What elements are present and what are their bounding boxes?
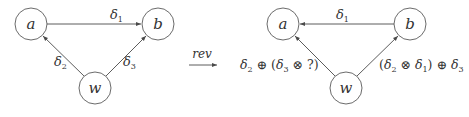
edge-label-delta2: δ2 — [54, 54, 67, 71]
node-a-label: a — [27, 15, 36, 33]
node-a-label: a — [279, 15, 288, 33]
node-w-label: w — [340, 79, 353, 97]
right-graph: a b w δ1 δ2 ⊕ (δ3 ⊗ ?) (δ2 ⊗ δ1) ⊕ δ3 — [240, 7, 464, 104]
node-w-label: w — [89, 79, 102, 97]
left-graph: a b w δ1 δ2 δ3 — [15, 7, 174, 104]
edge-label-w-to-a: δ2 ⊕ (δ3 ⊗ ?) — [240, 57, 319, 74]
edge-label-delta3: δ3 — [123, 54, 136, 71]
diagram-canvas: a b w δ1 δ2 δ3 rev a b w δ1 δ2 ⊕ (δ3 ⊗ ?… — [0, 0, 469, 117]
rev-label: rev — [192, 47, 212, 61]
rev-transform: rev — [189, 47, 217, 65]
node-b-label: b — [153, 15, 163, 33]
node-b-label: b — [405, 15, 415, 33]
edge-label-delta1: δ1 — [336, 7, 349, 24]
edge-label-w-to-b: (δ2 ⊗ δ1) ⊕ δ3 — [379, 57, 464, 74]
edge-label-delta1: δ1 — [110, 7, 123, 24]
